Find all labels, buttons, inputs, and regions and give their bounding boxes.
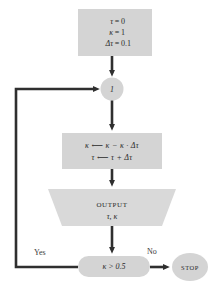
output-variables: τ, κ bbox=[107, 212, 118, 221]
process-line-kappa: κ ⟵ κ − κ · Δτ bbox=[85, 141, 139, 150]
init-dtau-lhs: Δτ bbox=[87, 39, 113, 48]
init-line-kappa: κ = 1 bbox=[87, 28, 143, 37]
process-box-text: κ ⟵ κ − κ · Δτ τ ⟵ τ + Δτ bbox=[62, 133, 162, 169]
edge-label-no: No bbox=[147, 247, 157, 256]
init-tau-lhs: τ bbox=[87, 17, 113, 26]
init-line-dtau: Δτ = 0.1 bbox=[87, 39, 143, 48]
init-dtau-op: = bbox=[113, 39, 121, 48]
init-line-tau: τ = 0 bbox=[87, 17, 143, 26]
init-dtau-rhs: 0.1 bbox=[121, 39, 143, 48]
decision-condition-label: κ > 0.5 bbox=[78, 256, 150, 277]
output-title: OUTPUT bbox=[96, 201, 127, 209]
init-kappa-op: = bbox=[113, 28, 121, 37]
init-tau-rhs: 0 bbox=[121, 17, 143, 26]
edge-label-yes: Yes bbox=[34, 248, 46, 257]
init-box-text: τ = 0 κ = 1 Δτ = 0.1 bbox=[78, 9, 152, 56]
init-tau-op: = bbox=[113, 17, 121, 26]
connector-circle-label: 1 bbox=[101, 78, 123, 100]
output-shape-text: OUTPUT τ, κ bbox=[64, 196, 160, 226]
process-line-tau: τ ⟵ τ + Δτ bbox=[91, 153, 132, 162]
init-kappa-rhs: 1 bbox=[121, 28, 143, 37]
init-kappa-lhs: κ bbox=[87, 28, 113, 37]
edge-decision-yes-loop bbox=[16, 89, 96, 267]
stop-terminal-label: STOP bbox=[172, 254, 208, 280]
